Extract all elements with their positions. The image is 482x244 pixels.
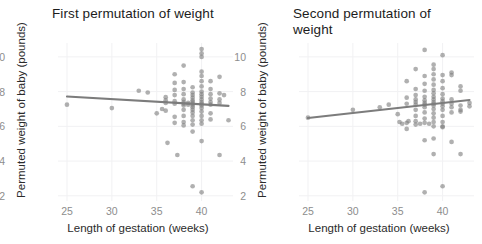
- data-point: [422, 88, 427, 93]
- data-point: [199, 139, 204, 144]
- data-point: [413, 87, 418, 92]
- y-tick-label: 4: [0, 155, 5, 167]
- data-point: [181, 108, 186, 113]
- permutation-scatter-figure: First permutation of weight Permuted wei…: [0, 0, 482, 244]
- trend-line: [67, 96, 229, 105]
- data-point: [422, 110, 427, 115]
- data-point: [449, 140, 454, 145]
- plot-panel: [58, 43, 233, 201]
- data-point: [440, 73, 445, 78]
- data-point: [431, 111, 436, 116]
- data-point: [199, 47, 204, 52]
- data-point: [413, 93, 418, 98]
- data-point: [440, 86, 445, 91]
- x-tick-label: 30: [99, 205, 125, 217]
- plot-panel: [299, 43, 474, 201]
- x-tick-label: 25: [295, 205, 321, 217]
- data-point: [110, 106, 115, 111]
- data-point: [163, 95, 168, 100]
- data-point: [404, 101, 409, 106]
- scatter-plot-svg: [299, 43, 474, 201]
- data-point: [458, 152, 463, 157]
- data-point: [190, 114, 195, 119]
- data-point: [165, 140, 170, 145]
- x-tick-label: 25: [54, 205, 80, 217]
- y-axis-label: Permuted weight of baby (pounds): [256, 15, 268, 205]
- data-point: [175, 153, 180, 158]
- data-point: [422, 116, 427, 121]
- data-point: [413, 67, 418, 72]
- y-tick-label: 10: [0, 51, 5, 63]
- data-point: [440, 92, 445, 97]
- x-tick-label: 35: [144, 205, 170, 217]
- data-point: [431, 77, 436, 82]
- data-point: [458, 103, 463, 108]
- data-point: [427, 121, 432, 126]
- data-point: [208, 111, 213, 116]
- data-point: [449, 73, 454, 78]
- data-point: [199, 69, 204, 74]
- data-point: [172, 114, 177, 119]
- gridlines: [299, 43, 474, 201]
- data-point: [404, 95, 409, 100]
- data-point: [431, 72, 436, 77]
- data-point: [413, 114, 418, 119]
- data-point: [199, 79, 204, 84]
- data-point: [172, 72, 177, 77]
- facet-second-permutation: Second permutation of weight Permuted we…: [241, 0, 482, 244]
- y-tick-label: 2: [0, 190, 5, 202]
- x-tick-label: 35: [385, 205, 411, 217]
- data-point: [400, 121, 405, 126]
- data-point: [431, 152, 436, 157]
- data-point: [145, 90, 150, 95]
- data-point: [431, 124, 436, 129]
- x-axis-label: Length of gestation (weeks): [40, 222, 236, 234]
- x-tick-label: 40: [430, 205, 456, 217]
- y-tick-label: 8: [224, 86, 246, 98]
- y-tick-label: 8: [0, 86, 5, 98]
- data-point: [172, 121, 177, 126]
- data-point: [190, 184, 195, 189]
- data-point: [422, 48, 427, 53]
- data-point: [65, 102, 70, 107]
- data-point: [422, 190, 427, 195]
- data-point: [208, 117, 213, 122]
- data-point: [406, 119, 411, 124]
- data-point: [190, 85, 195, 90]
- data-point: [208, 87, 213, 92]
- data-point: [440, 53, 445, 58]
- data-point: [413, 108, 418, 113]
- data-point: [449, 110, 454, 115]
- data-points: [65, 47, 231, 195]
- data-point: [458, 88, 463, 93]
- data-point: [199, 121, 204, 126]
- data-point: [413, 122, 418, 127]
- data-point: [422, 121, 427, 126]
- data-point: [199, 190, 204, 195]
- data-point: [440, 120, 445, 125]
- y-tick-label: 10: [224, 51, 246, 63]
- data-point: [431, 62, 436, 67]
- data-point: [467, 104, 472, 109]
- data-point: [418, 121, 423, 126]
- data-point: [181, 80, 186, 85]
- data-point: [458, 109, 463, 114]
- data-point: [181, 123, 186, 128]
- data-point: [395, 112, 400, 117]
- x-axis-label: Length of gestation (weeks): [281, 222, 477, 234]
- data-point: [199, 74, 204, 79]
- data-point: [199, 84, 204, 89]
- facet-first-permutation: First permutation of weight Permuted wei…: [0, 0, 241, 244]
- data-point: [422, 74, 427, 79]
- data-point: [440, 125, 445, 130]
- data-point: [440, 108, 445, 113]
- data-point: [404, 127, 409, 132]
- data-point: [199, 55, 204, 60]
- data-point: [181, 87, 186, 92]
- data-point: [386, 102, 391, 107]
- data-point: [422, 138, 427, 143]
- page-title: Second permutation of weight: [293, 6, 473, 37]
- data-points: [306, 48, 472, 195]
- x-tick-label: 40: [189, 205, 215, 217]
- data-point: [217, 75, 222, 80]
